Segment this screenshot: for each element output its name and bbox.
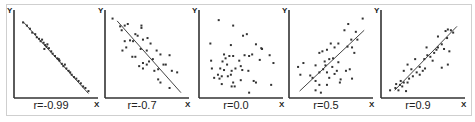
data-point (419, 66, 421, 68)
data-point (140, 48, 142, 50)
data-point (432, 60, 434, 62)
data-point (426, 54, 428, 56)
data-point (78, 80, 80, 82)
data-point (320, 92, 322, 94)
data-point (217, 74, 219, 76)
data-point (349, 68, 351, 70)
data-point (138, 65, 140, 67)
data-point (147, 37, 149, 39)
data-point (339, 82, 341, 84)
trend-line (395, 26, 457, 90)
data-point (395, 83, 397, 85)
correlation-label: r=-0.7 (127, 99, 156, 111)
y-axis-label: Y (98, 6, 104, 15)
data-point (259, 59, 261, 61)
data-point (222, 60, 224, 62)
data-point (142, 62, 144, 64)
data-point (315, 80, 317, 82)
data-point (429, 56, 431, 58)
data-point (150, 43, 152, 45)
data-point (437, 36, 439, 38)
data-point (328, 77, 330, 79)
data-point (211, 67, 213, 69)
scatter-panel-2: YXr=-0.7 (98, 6, 191, 111)
data-point (159, 82, 161, 84)
data-point (446, 37, 448, 39)
data-point (121, 50, 123, 52)
data-point (176, 71, 178, 73)
data-point (248, 92, 250, 94)
data-point (242, 35, 244, 37)
data-point (334, 73, 336, 75)
data-point (351, 46, 353, 48)
data-point (248, 55, 250, 57)
data-point (43, 42, 45, 44)
data-point (441, 67, 443, 69)
data-point (403, 70, 405, 72)
data-point (157, 78, 159, 80)
data-point (401, 85, 403, 87)
data-point (221, 83, 223, 85)
data-point (397, 89, 399, 91)
data-point (337, 61, 339, 63)
data-point (389, 89, 391, 91)
data-point (423, 58, 425, 60)
data-point (315, 64, 317, 66)
data-point (422, 70, 424, 72)
data-point (148, 60, 150, 62)
data-point (153, 70, 155, 72)
data-point (315, 89, 317, 91)
data-point (156, 50, 158, 52)
x-axis-label: X (279, 100, 285, 109)
correlation-label: r=-0.99 (33, 99, 68, 111)
data-point (228, 55, 230, 57)
data-point (61, 63, 63, 65)
data-point (355, 31, 357, 33)
data-point (159, 53, 161, 55)
data-point (146, 50, 148, 52)
data-point (65, 67, 67, 69)
data-point (318, 71, 320, 73)
data-point (253, 80, 255, 82)
data-point (221, 75, 223, 77)
data-point (324, 60, 326, 62)
data-point (445, 30, 447, 32)
x-axis-label: X (94, 100, 100, 109)
y-axis-label: Y (282, 6, 288, 15)
data-point (270, 84, 272, 86)
data-point (232, 82, 234, 84)
data-point (50, 50, 52, 52)
data-point (238, 60, 240, 62)
x-axis-label: X (185, 100, 191, 109)
data-point (134, 33, 136, 35)
data-point (334, 46, 336, 48)
data-point (332, 57, 334, 59)
data-point (73, 76, 75, 78)
data-point (407, 64, 409, 66)
data-point (330, 43, 332, 45)
data-point (343, 29, 345, 31)
data-point (234, 85, 236, 87)
data-point (272, 62, 274, 64)
data-point (218, 78, 220, 80)
data-point (435, 49, 437, 51)
data-point (437, 46, 439, 48)
data-point (450, 29, 452, 31)
data-point (26, 25, 28, 27)
data-point (299, 74, 301, 76)
data-point (448, 50, 450, 52)
data-point (328, 58, 330, 60)
data-point (38, 38, 40, 40)
x-axis-label: X (461, 100, 467, 109)
data-point (443, 48, 445, 50)
data-point (414, 58, 416, 60)
data-point (340, 78, 342, 80)
data-point (29, 28, 31, 30)
data-point (410, 68, 412, 70)
data-point (350, 39, 352, 41)
data-point (255, 43, 257, 45)
data-point (447, 64, 449, 66)
data-point (400, 80, 402, 82)
data-point (345, 70, 347, 72)
y-axis-label: Y (374, 6, 380, 15)
